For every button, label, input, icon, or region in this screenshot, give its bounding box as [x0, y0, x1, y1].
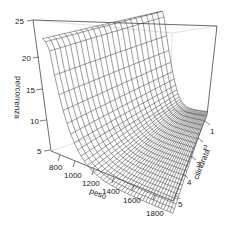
z-tick-5: 5 — [37, 147, 42, 156]
x-tick-1600: 1600 — [123, 196, 141, 205]
z-axis-title: percorrenza — [12, 76, 23, 120]
z-tick-25: 25 — [15, 17, 24, 26]
z-tick-10: 10 — [30, 117, 39, 126]
z-tick-20: 20 — [22, 54, 31, 63]
x-tick-1000: 1000 — [64, 171, 82, 180]
surface-mesh — [42, 11, 207, 213]
y-tick-5: 5 — [178, 200, 183, 209]
y-axis-title: cilindrata — [192, 147, 213, 181]
y-tick-1: 1 — [210, 127, 215, 136]
z-tick-15: 15 — [26, 86, 35, 95]
surface-plot: 25 20 15 10 5 percorrenza 800 1000 1200 … — [0, 0, 227, 231]
y-tick-4: 4 — [187, 178, 192, 187]
x-tick-800: 800 — [49, 163, 63, 172]
x-tick-1800: 1800 — [146, 209, 164, 218]
